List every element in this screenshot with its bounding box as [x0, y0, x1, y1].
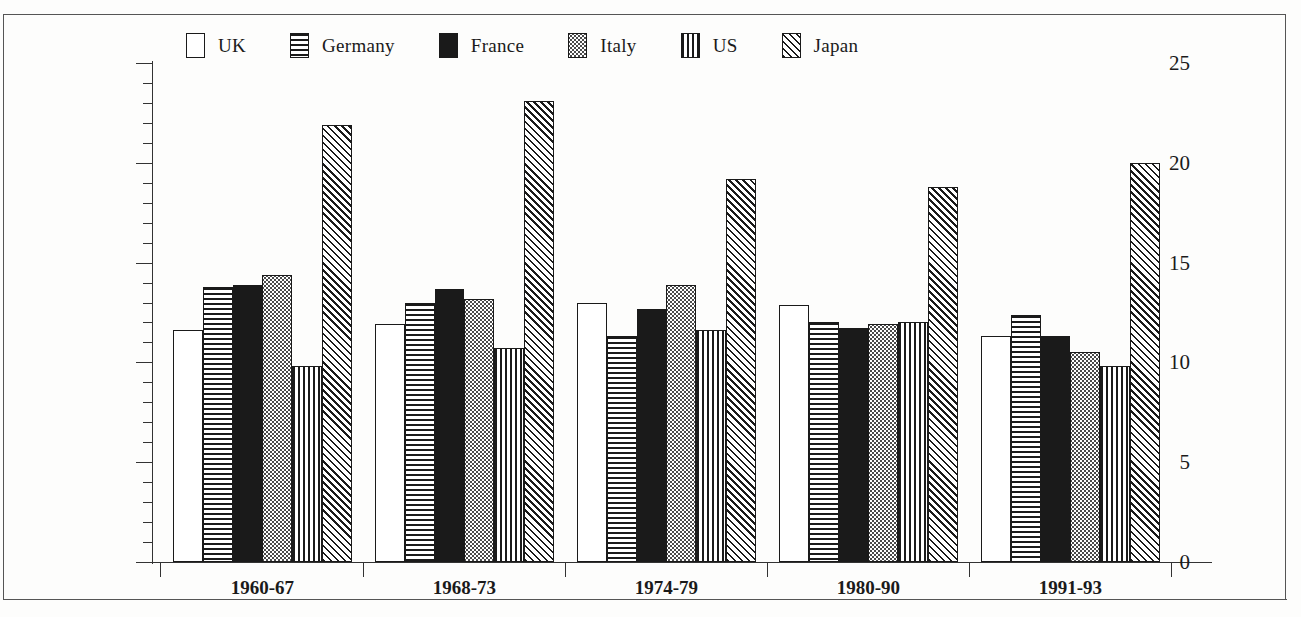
- x-axis-group-label: 1968-73: [433, 578, 496, 597]
- x-axis-group-label: 1960-67: [231, 578, 294, 597]
- y-axis-minor-tick: [143, 223, 152, 224]
- y-axis-minor-tick: [143, 183, 152, 184]
- bar-france-1991-93[interactable]: [1041, 336, 1071, 562]
- x-axis-group-separator: [969, 562, 970, 577]
- x-axis-line: [138, 562, 1212, 563]
- legend-item-uk[interactable]: UK: [186, 33, 246, 58]
- legend-item-label: Japan: [814, 36, 859, 55]
- y-axis-tick-label: 0: [1180, 552, 1191, 573]
- bar-us-1974-79[interactable]: [696, 330, 726, 562]
- y-axis-minor-tick: [143, 283, 152, 284]
- y-axis-tick-label: 5: [1180, 452, 1191, 473]
- figure-container: UKGermanyFranceItalyUSJapan 0510152025 1…: [0, 0, 1301, 617]
- x-axis-group-label: 1974-79: [635, 578, 698, 597]
- y-axis-minor-tick: [143, 442, 152, 443]
- bar-germany-1960-67[interactable]: [203, 287, 233, 562]
- bar-japan-1974-79[interactable]: [726, 179, 756, 562]
- bar-france-1968-73[interactable]: [435, 289, 465, 562]
- y-axis-minor-tick: [143, 522, 152, 523]
- legend-item-italy[interactable]: Italy: [568, 33, 636, 58]
- legend-item-label: US: [713, 36, 738, 55]
- y-axis-minor-tick: [143, 203, 152, 204]
- bar-us-1960-67[interactable]: [292, 366, 322, 562]
- y-axis-tick-label: 25: [1169, 53, 1190, 74]
- y-axis-major-tick: [136, 362, 152, 363]
- bar-japan-1968-73[interactable]: [524, 101, 554, 562]
- page-frame-bottom-rule: [3, 599, 1287, 600]
- legend-item-us[interactable]: US: [681, 33, 738, 58]
- bar-japan-1991-93[interactable]: [1130, 163, 1160, 562]
- y-axis-minor-tick: [143, 123, 152, 124]
- y-axis-minor-tick: [143, 542, 152, 543]
- y-axis-minor-tick: [143, 143, 152, 144]
- bar-italy-1974-79[interactable]: [666, 285, 696, 562]
- legend-swatch-vlines-icon: [681, 33, 700, 58]
- legend-swatch-diag-icon: [782, 33, 801, 58]
- legend-item-france[interactable]: France: [439, 33, 525, 58]
- bar-japan-1960-67[interactable]: [322, 125, 352, 562]
- y-axis-tick-label: 15: [1169, 252, 1190, 273]
- bar-us-1991-93[interactable]: [1100, 366, 1130, 562]
- bar-france-1980-90[interactable]: [839, 328, 869, 562]
- bar-uk-1960-67[interactable]: [173, 330, 203, 562]
- bar-italy-1991-93[interactable]: [1070, 352, 1100, 562]
- y-axis-minor-tick: [143, 422, 152, 423]
- y-axis-tick-label: 20: [1169, 152, 1190, 173]
- legend-item-label: France: [471, 36, 525, 55]
- y-axis-minor-tick: [143, 322, 152, 323]
- bar-uk-1968-73[interactable]: [375, 324, 405, 562]
- x-axis-group-separator: [1171, 562, 1172, 577]
- bar-uk-1991-93[interactable]: [981, 336, 1011, 562]
- bar-france-1960-67[interactable]: [233, 285, 263, 562]
- legend-item-japan[interactable]: Japan: [782, 33, 859, 58]
- bar-japan-1980-90[interactable]: [928, 187, 958, 562]
- y-axis-minor-tick: [143, 402, 152, 403]
- plot-area: 0510152025 1960-671968-731974-791980-901…: [152, 63, 1212, 562]
- bar-uk-1974-79[interactable]: [577, 303, 607, 562]
- bar-germany-1968-73[interactable]: [405, 303, 435, 562]
- bar-germany-1980-90[interactable]: [809, 322, 839, 562]
- y-axis-minor-tick: [143, 482, 152, 483]
- legend-swatch-dots-icon: [568, 33, 587, 58]
- y-axis-line: [152, 61, 153, 564]
- bar-uk-1980-90[interactable]: [779, 305, 809, 562]
- legend-item-label: UK: [218, 36, 246, 55]
- x-axis-group-separator: [160, 562, 161, 577]
- y-axis-major-tick: [136, 462, 152, 463]
- legend-item-label: Italy: [600, 36, 636, 55]
- y-axis-minor-tick: [143, 103, 152, 104]
- bar-italy-1980-90[interactable]: [868, 324, 898, 562]
- x-axis-group-separator: [565, 562, 566, 577]
- y-axis-minor-tick: [143, 342, 152, 343]
- bar-us-1968-73[interactable]: [494, 348, 524, 562]
- legend-swatch-solid-icon: [439, 33, 458, 58]
- y-axis-minor-tick: [143, 382, 152, 383]
- y-axis-minor-tick: [143, 502, 152, 503]
- x-axis-group-separator: [363, 562, 364, 577]
- y-axis-major-tick: [136, 163, 152, 164]
- bar-italy-1968-73[interactable]: [464, 299, 494, 562]
- bar-france-1974-79[interactable]: [637, 309, 667, 562]
- y-axis-minor-tick: [143, 83, 152, 84]
- y-axis-major-tick: [136, 562, 152, 563]
- legend-item-germany[interactable]: Germany: [290, 33, 395, 58]
- legend-item-label: Germany: [322, 36, 395, 55]
- legend-swatch-hlines-icon: [290, 33, 309, 58]
- bar-germany-1991-93[interactable]: [1011, 315, 1041, 563]
- bar-us-1980-90[interactable]: [898, 322, 928, 562]
- legend-swatch-plain-icon: [186, 33, 205, 58]
- x-axis-group-label: 1980-90: [837, 578, 900, 597]
- chart-legend: UKGermanyFranceItalyUSJapan: [186, 30, 858, 60]
- bar-germany-1974-79[interactable]: [607, 336, 637, 562]
- y-axis-major-tick: [136, 63, 152, 64]
- bar-italy-1960-67[interactable]: [262, 275, 292, 562]
- y-axis-tick-label: 10: [1169, 352, 1190, 373]
- x-axis-group-label: 1991-93: [1039, 578, 1102, 597]
- y-axis-minor-tick: [143, 303, 152, 304]
- y-axis-minor-tick: [143, 243, 152, 244]
- y-axis-major-tick: [136, 263, 152, 264]
- x-axis-group-separator: [767, 562, 768, 577]
